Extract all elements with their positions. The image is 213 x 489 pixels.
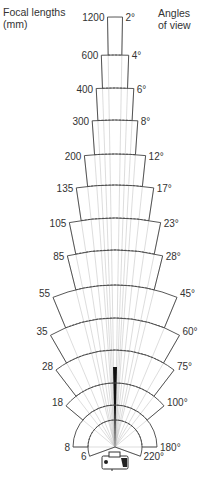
angle-of-view-label: 75° xyxy=(177,361,192,372)
focal-length-label: 85 xyxy=(53,251,65,262)
focal-length-label: 200 xyxy=(65,151,82,162)
view-rays xyxy=(51,17,180,456)
angle-of-view-label: 17° xyxy=(157,183,172,194)
angle-of-view-label: 4° xyxy=(132,50,142,61)
angle-of-view-label: 2° xyxy=(126,12,136,23)
angle-of-view-label: 23° xyxy=(164,218,179,229)
focal-length-label: 600 xyxy=(82,50,99,61)
focal-length-label: 55 xyxy=(39,288,51,299)
angle-of-view-diagram: 12002°6004°4006°3008°20012°13517°10523°8… xyxy=(0,0,213,489)
focal-length-label: 300 xyxy=(73,116,90,127)
focal-length-label: 135 xyxy=(57,183,74,194)
angle-of-view-label: 220° xyxy=(143,451,164,462)
camera-icon xyxy=(102,452,128,471)
angle-of-view-label: 6° xyxy=(137,84,147,95)
focal-length-label: 6 xyxy=(81,451,87,462)
focal-length-label: 105 xyxy=(50,218,67,229)
angle-of-view-label: 60° xyxy=(183,326,198,337)
focal-length-label: 400 xyxy=(77,84,94,95)
angle-of-view-label: 100° xyxy=(167,397,188,408)
focal-length-label: 18 xyxy=(52,397,64,408)
angle-of-view-label: 28° xyxy=(166,251,181,262)
focal-length-label: 28 xyxy=(42,361,54,372)
angle-of-view-label: 8° xyxy=(141,116,151,127)
angle-of-view-label: 12° xyxy=(149,151,164,162)
angle-of-view-label: 45° xyxy=(180,288,195,299)
focal-length-label: 1200 xyxy=(82,12,105,23)
focal-length-label: 8 xyxy=(64,442,70,453)
focal-length-label: 35 xyxy=(36,326,48,337)
